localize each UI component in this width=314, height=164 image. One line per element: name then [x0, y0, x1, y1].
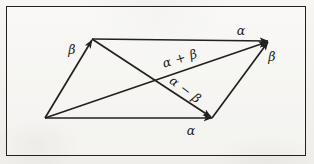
vector-canvas — [0, 0, 314, 164]
vector-diagram-figure: β α β α + β α − β α — [0, 0, 314, 164]
label-beta-left: β — [68, 44, 76, 57]
label-beta-right: β — [268, 51, 276, 64]
vector-beta-right — [212, 42, 268, 118]
label-alpha-top: α — [237, 25, 246, 38]
label-alpha-bottom: α — [187, 125, 196, 138]
vector-alpha-top — [92, 39, 268, 41]
